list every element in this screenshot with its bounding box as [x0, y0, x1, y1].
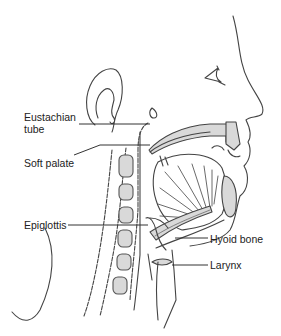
- soft-palate-leader: [74, 145, 100, 155]
- label-eustachian-line1: Eustachian: [24, 111, 76, 123]
- label-larynx: Larynx: [210, 259, 242, 271]
- label-soft-palate: Soft palate: [24, 157, 74, 169]
- eye-icon: [205, 66, 225, 85]
- label-eustachian-tube: Eustachian tube: [24, 111, 76, 135]
- back-of-neck: [12, 228, 52, 320]
- hyoid: [150, 206, 212, 240]
- larynx: [152, 259, 172, 265]
- ear: [87, 69, 123, 132]
- label-hyoid-bone: Hyoid bone: [210, 233, 263, 245]
- label-eustachian-line2: tube: [24, 123, 76, 135]
- palate: [149, 124, 234, 154]
- label-epiglottis: Epiglottis: [24, 219, 67, 231]
